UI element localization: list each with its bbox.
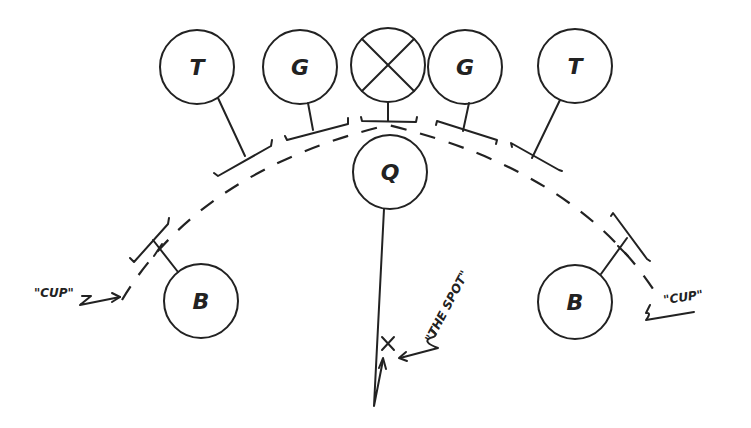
svg-text:B: B xyxy=(193,289,210,314)
center-block xyxy=(361,102,417,122)
svg-text:G: G xyxy=(456,55,474,80)
quarterback-node: Q xyxy=(353,135,427,209)
tackle-right-node: T xyxy=(538,29,612,103)
back-right-node: B xyxy=(538,265,612,339)
quarterback-drop-line xyxy=(374,209,384,406)
tackle-left-block xyxy=(214,98,272,176)
svg-text:"THE SPOT": "THE SPOT" xyxy=(422,268,471,344)
guard-left-node: G xyxy=(263,30,337,104)
svg-text:B: B xyxy=(567,290,584,315)
cup-label-right: "CUP" xyxy=(646,288,704,320)
guard-left-block xyxy=(285,103,348,140)
svg-text:"CUP": "CUP" xyxy=(662,288,703,307)
back-left-node: B xyxy=(164,264,238,338)
svg-text:T: T xyxy=(567,54,584,79)
svg-text:"CUP": "CUP" xyxy=(34,286,74,300)
cup-label-left: "CUP" xyxy=(34,286,120,305)
guard-right-block xyxy=(436,103,497,144)
pass-protection-diagram: T G G T Q xyxy=(0,0,751,428)
svg-text:G: G xyxy=(291,55,309,80)
svg-text:T: T xyxy=(189,55,206,80)
the-spot-marker xyxy=(382,337,394,350)
back-right-block xyxy=(601,213,650,274)
guard-right-node: G xyxy=(428,30,502,104)
tackle-right-block xyxy=(511,100,562,171)
back-left-block xyxy=(130,218,178,272)
cup-arc xyxy=(122,125,655,300)
tackle-left-node: T xyxy=(160,30,234,104)
center-node xyxy=(351,28,425,102)
svg-text:Q: Q xyxy=(381,160,400,185)
the-spot-label: "THE SPOT" xyxy=(399,268,472,361)
